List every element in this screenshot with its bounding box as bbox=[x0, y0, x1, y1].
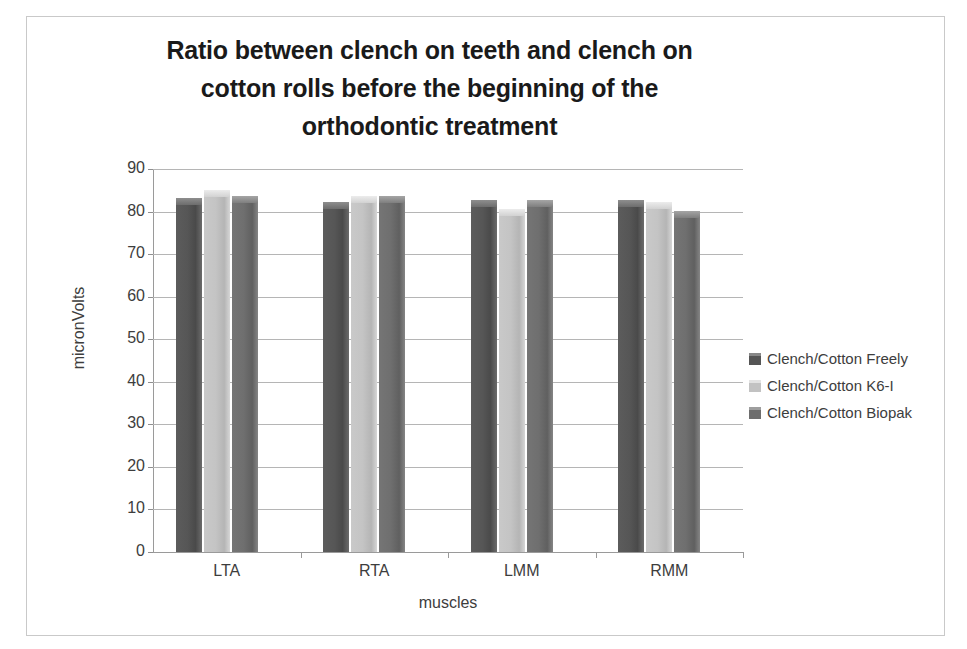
bar-front-face bbox=[232, 203, 258, 552]
bar[interactable] bbox=[351, 196, 377, 552]
y-axis-tick-label: 70 bbox=[105, 244, 145, 262]
legend-swatch-icon bbox=[749, 380, 761, 392]
legend-label: Clench/Cotton K6-I bbox=[767, 377, 894, 394]
bar-top-face bbox=[471, 200, 497, 207]
bar-front-face bbox=[618, 207, 644, 552]
bar-top-face bbox=[176, 198, 202, 205]
bar-top-face bbox=[379, 196, 405, 203]
bar[interactable] bbox=[527, 200, 553, 552]
y-axis-tick-label: 40 bbox=[105, 372, 145, 390]
bar-group bbox=[596, 169, 744, 552]
x-axis-tick-labels: LTARTALMMRMM bbox=[153, 562, 743, 586]
bar-front-face bbox=[204, 197, 230, 552]
bar-top-face bbox=[618, 200, 644, 207]
y-axis-tick-label: 30 bbox=[105, 414, 145, 432]
legend-label: Clench/Cotton Freely bbox=[767, 350, 908, 367]
bar-top-face bbox=[351, 196, 377, 203]
bar-front-face bbox=[176, 205, 202, 552]
x-axis-tick-label: RTA bbox=[301, 562, 449, 580]
legend-item[interactable]: Clench/Cotton Biopak bbox=[749, 399, 949, 426]
legend-item[interactable]: Clench/Cotton Freely bbox=[749, 345, 949, 372]
y-axis-tick-label: 50 bbox=[105, 329, 145, 347]
bar-top-face bbox=[674, 211, 700, 218]
bar-front-face bbox=[646, 209, 672, 552]
bar[interactable] bbox=[471, 200, 497, 552]
bar-front-face bbox=[471, 207, 497, 552]
bar[interactable] bbox=[379, 196, 405, 552]
y-axis-tick-labels: 0102030405060708090 bbox=[103, 169, 145, 552]
chart-title: Ratio between clench on teeth and clench… bbox=[132, 31, 727, 145]
y-axis-tick-label: 0 bbox=[105, 542, 145, 560]
legend-swatch-icon bbox=[749, 407, 761, 419]
x-axis-title: muscles bbox=[153, 594, 743, 612]
bar[interactable] bbox=[204, 190, 230, 552]
bar-group bbox=[448, 169, 596, 552]
bar[interactable] bbox=[232, 196, 258, 552]
chart-frame: Ratio between clench on teeth and clench… bbox=[26, 16, 945, 636]
bar-front-face bbox=[323, 209, 349, 552]
x-axis-tick-label: LTA bbox=[153, 562, 301, 580]
bar-front-face bbox=[499, 216, 525, 552]
bar-front-face bbox=[674, 218, 700, 552]
x-axis-tick-label: LMM bbox=[448, 562, 596, 580]
chart-title-line-1: Ratio between clench on teeth and clench… bbox=[132, 31, 727, 69]
plot-area bbox=[153, 169, 743, 552]
bar[interactable] bbox=[674, 211, 700, 552]
x-axis-tick-mark bbox=[743, 552, 744, 558]
bar[interactable] bbox=[646, 202, 672, 552]
bar-top-face bbox=[646, 202, 672, 209]
bar-top-face bbox=[204, 190, 230, 197]
x-axis-tick-label: RMM bbox=[596, 562, 744, 580]
bar-group bbox=[301, 169, 449, 552]
y-axis-tick-label: 20 bbox=[105, 457, 145, 475]
bar-group bbox=[153, 169, 301, 552]
chart-title-line-2: cotton rolls before the beginning of the bbox=[132, 69, 727, 107]
chart-title-line-3: orthodontic treatment bbox=[132, 107, 727, 145]
x-axis-line bbox=[153, 552, 743, 553]
bar[interactable] bbox=[618, 200, 644, 552]
y-axis-title: micronVolts bbox=[70, 268, 88, 388]
y-axis-tick-label: 60 bbox=[105, 287, 145, 305]
legend-label: Clench/Cotton Biopak bbox=[767, 404, 912, 421]
y-axis-tick-label: 80 bbox=[105, 202, 145, 220]
bar-front-face bbox=[527, 207, 553, 552]
y-axis-tick-label: 10 bbox=[105, 499, 145, 517]
bar-top-face bbox=[527, 200, 553, 207]
bar[interactable] bbox=[323, 202, 349, 552]
bar-top-face bbox=[232, 196, 258, 203]
bar-front-face bbox=[379, 203, 405, 552]
legend-swatch-icon bbox=[749, 353, 761, 365]
chart-legend: Clench/Cotton FreelyClench/Cotton K6-ICl… bbox=[749, 345, 949, 426]
bar[interactable] bbox=[176, 198, 202, 552]
bar-top-face bbox=[499, 209, 525, 216]
bar-front-face bbox=[351, 203, 377, 552]
bar[interactable] bbox=[499, 209, 525, 552]
bar-top-face bbox=[323, 202, 349, 209]
y-axis-tick-label: 90 bbox=[105, 159, 145, 177]
legend-item[interactable]: Clench/Cotton K6-I bbox=[749, 372, 949, 399]
